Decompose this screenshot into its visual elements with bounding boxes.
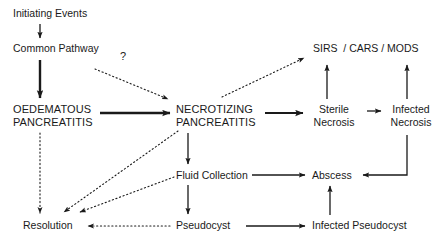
edge-label-question-mark: ? xyxy=(120,50,126,63)
node-necrotizing-pancreatitis: NECROTIZING PANCREATITIS xyxy=(176,103,256,128)
node-abscess: Abscess xyxy=(312,169,352,182)
node-infected-pseudocyst: Infected Pseudocyst xyxy=(312,219,407,232)
edge-infected-necrosis-to-abscess xyxy=(363,135,407,175)
node-oedematous-pancreatitis: OEDEMATOUS PANCREATITIS xyxy=(13,103,93,128)
edge-necrotizing-to-sirs-dotted xyxy=(222,58,304,97)
edge-necrotizing-to-resolution-dotted xyxy=(64,131,178,212)
node-infected-necrosis: Infected Necrosis xyxy=(386,103,436,128)
edge-fluid-to-resolution-dotted xyxy=(80,177,174,212)
node-common-pathway: Common Pathway xyxy=(13,42,99,55)
node-pseudocyst: Pseudocyst xyxy=(176,219,230,232)
pancreatitis-flow-diagram: Initiating Events Common Pathway OEDEMAT… xyxy=(0,0,437,238)
node-initiating-events: Initiating Events xyxy=(13,7,87,20)
edge-common-to-necrotizing-dotted xyxy=(95,69,168,99)
node-sterile-necrosis: Sterile Necrosis xyxy=(310,103,358,128)
node-resolution: Resolution xyxy=(23,219,73,232)
node-fluid-collection: Fluid Collection xyxy=(176,169,248,182)
node-sirs-cars-mods: SIRS / CARS / MODS xyxy=(313,42,419,55)
